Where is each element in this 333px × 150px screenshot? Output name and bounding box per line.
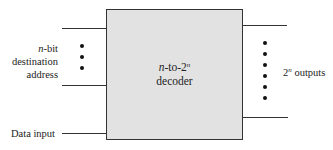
output-ellipsis-dot [263, 96, 267, 100]
output-line-top [243, 25, 287, 26]
output-ellipsis-dot [263, 52, 267, 56]
decoder-label: n-to-2n decoder [106, 58, 243, 88]
decoder-label-line2: decoder [106, 74, 243, 88]
address-label-line1: n-bit [0, 42, 58, 55]
decoder-label-line1: n-to-2n [106, 58, 243, 74]
decoder-label-sup: n [187, 61, 191, 69]
outputs-label-text: outputs [292, 67, 326, 78]
output-line-bottom [243, 117, 288, 118]
output-ellipsis-dot [263, 85, 267, 89]
address-input-line-bottom [62, 85, 106, 86]
decoder-label-mid: -to-2 [164, 61, 186, 73]
output-ellipsis-dot [263, 41, 267, 45]
address-label-bit: -bit [43, 43, 58, 54]
address-ellipsis-dot [80, 44, 84, 48]
address-label: n-bit destination address [0, 42, 58, 81]
address-ellipsis-dot [80, 55, 84, 59]
data-input-line [62, 133, 106, 134]
data-input-label: Data input [11, 127, 55, 140]
address-label-line3: address [0, 68, 58, 81]
output-ellipsis-dot [263, 74, 267, 78]
address-input-line-top [62, 28, 106, 29]
address-label-line2: destination [0, 55, 58, 68]
address-ellipsis-dot [80, 66, 84, 70]
outputs-label: 2n outputs [283, 64, 325, 79]
output-ellipsis-dot [263, 63, 267, 67]
